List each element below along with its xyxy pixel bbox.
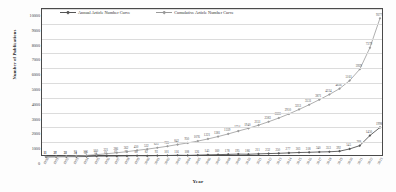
y-tick-label: 2000 [14,132,40,136]
data-point-label: 1998 [376,122,383,126]
data-point-label: 11 [44,151,47,155]
x-axis-title: Year [0,179,396,184]
x-tick-label: 2023 [377,157,384,165]
x-tick-label: 1997 [113,157,120,165]
x-tick-label: 2022 [366,157,373,165]
data-point-marker [308,103,311,106]
data-point-label: 353 [326,146,331,150]
data-point-marker [338,150,341,153]
data-point-label: 5161 [346,75,353,79]
data-point-label: 545 [346,143,351,147]
data-point-label: 101 [164,150,169,154]
data-point-label: 392 [336,146,341,150]
data-point-marker [298,108,301,111]
data-point-label: 1381 [214,131,221,135]
data-point-label: 1221 [204,133,211,137]
data-point-marker [227,133,230,136]
legend-item-cumulative[interactable]: Cumulative Article Number Curve [156,10,234,15]
x-tick-label: 1998 [124,157,131,165]
x-tick-label: 2005 [194,157,201,165]
data-point-marker [207,138,210,141]
data-point-label: 74 [74,150,78,154]
data-point-label: 532 [144,144,149,148]
x-axis-tick-labels: 1990199119921993199419951996199719981999… [41,157,383,179]
gridline [42,127,382,128]
data-point-label: 178 [225,149,230,153]
y-tick-label: 4000 [14,103,40,107]
x-tick-label: 2019 [336,157,343,165]
gridline [42,39,382,40]
y-tick-label: 10000 [14,14,40,18]
data-point-label: 126 [194,150,199,154]
y-axis-tick-labels: 1000090008000700060005000400030002000100… [14,8,40,156]
x-tick-label: 2016 [306,157,313,165]
x-tick-label: 2002 [164,157,171,165]
x-tick-label: 2010 [245,157,252,165]
y-tick-label: 3000 [14,117,40,121]
data-point-label: 211 [255,148,260,152]
x-tick-label: 2000 [144,157,151,165]
gridline [42,68,382,69]
data-point-label: 3213 [295,104,302,108]
data-point-label: 221 [103,148,108,152]
data-point-label: 116 [174,150,179,154]
data-point-marker [288,152,291,155]
data-point-marker [298,151,301,154]
data-point-label: 195 [235,149,240,153]
data-point-marker [277,117,280,120]
x-tick-label: 2003 [174,157,181,165]
data-point-label: 950 [184,137,189,141]
data-point-marker [227,153,230,156]
data-point-label: 250 [275,148,280,152]
x-tick-label: 1991 [53,157,60,165]
x-tick-label: 2015 [296,157,303,165]
gridline [42,53,382,54]
data-point-label: 145 [205,149,210,153]
data-point-label: 1450 [366,130,373,134]
data-point-label: 340 [316,146,321,150]
x-tick-label: 2008 [225,157,232,165]
data-point-marker [166,145,169,148]
legend-item-annual[interactable]: Annual Article Number Curve [60,10,130,15]
y-tick-label: 5000 [14,88,40,92]
data-point-marker [277,152,280,155]
data-point-marker [308,151,311,154]
publication-growth-chart: Number of Publications Year 100009000800… [0,0,396,192]
data-point-marker [156,146,159,149]
data-point-label: 106 [83,150,88,154]
x-tick-label: 2021 [356,157,363,165]
plot-area: 1117222432546165768882931011161081261451… [41,8,383,156]
data-point-marker [237,130,240,133]
data-point-label: 93 [155,150,159,154]
data-point-label: 9377 [376,13,383,17]
gridline [42,83,382,84]
x-tick-label: 1995 [93,157,100,165]
x-tick-label: 2013 [275,157,282,165]
x-tick-label: 2020 [346,157,353,165]
y-tick-label: 0 [14,162,40,166]
x-tick-label: 2014 [286,157,293,165]
data-point-marker [217,135,220,138]
x-tick-label: 2018 [326,157,333,165]
x-tick-label: 2007 [215,157,222,165]
line-marker-icon [156,11,172,15]
y-tick-label: 7000 [14,58,40,62]
data-point-marker [318,151,321,154]
data-point-marker [176,143,179,146]
data-point-marker [207,154,210,157]
data-point-marker [348,148,351,151]
x-tick-label: 1992 [63,157,70,165]
data-point-marker [379,17,382,20]
x-tick-label: 2012 [265,157,272,165]
data-point-label: 82 [145,150,149,154]
data-point-label: 1076 [194,135,201,139]
data-point-label: 2383 [265,116,272,120]
data-point-marker [257,153,260,156]
chart-legend: Annual Article Number Curve Cumulative A… [60,10,234,15]
data-point-label: 50 [64,151,68,155]
x-tick-label: 2004 [184,157,191,165]
gridline [42,98,382,99]
x-tick-label: 2017 [316,157,323,165]
data-point-marker [267,120,270,123]
line-marker-icon [60,11,76,15]
